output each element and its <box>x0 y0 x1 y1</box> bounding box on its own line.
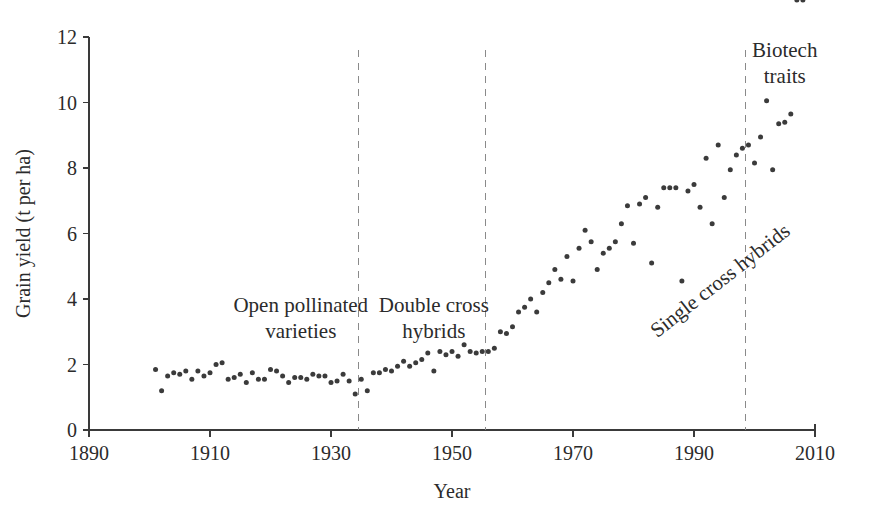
data-point <box>201 373 206 378</box>
data-point <box>244 380 249 385</box>
data-point <box>214 362 219 367</box>
data-point <box>734 152 739 157</box>
y-tick-label: 0 <box>67 419 77 441</box>
data-point <box>389 369 394 374</box>
x-tick-label: 1890 <box>69 442 109 464</box>
data-point <box>298 375 303 380</box>
data-point <box>510 324 515 329</box>
data-point <box>419 357 424 362</box>
x-tick-label: 1910 <box>190 442 230 464</box>
data-point <box>583 228 588 233</box>
data-point <box>195 369 200 374</box>
y-tick-label: 6 <box>67 223 77 245</box>
data-point <box>177 372 182 377</box>
data-point <box>776 121 781 126</box>
annotation-biotech-traits: Biotech <box>752 38 818 62</box>
data-point <box>746 143 751 148</box>
data-point <box>667 185 672 190</box>
data-point <box>304 377 309 382</box>
data-point <box>189 377 194 382</box>
data-point <box>341 372 346 377</box>
data-point <box>256 377 261 382</box>
data-point <box>770 167 775 172</box>
x-tick-label: 2010 <box>795 442 835 464</box>
data-point <box>716 143 721 148</box>
data-point <box>558 277 563 282</box>
data-point <box>437 349 442 354</box>
data-point <box>401 359 406 364</box>
data-point <box>431 369 436 374</box>
annotation-biotech-traits-line2: traits <box>764 64 806 88</box>
data-point <box>625 203 630 208</box>
data-point <box>692 182 697 187</box>
data-point <box>377 370 382 375</box>
x-tick-label: 1930 <box>311 442 351 464</box>
data-point <box>571 278 576 283</box>
data-point <box>522 305 527 310</box>
annotation-open-pollinated-varieties-line2: varieties <box>265 319 336 343</box>
data-point <box>534 310 539 315</box>
data-point <box>546 280 551 285</box>
y-tick-label: 4 <box>67 288 77 310</box>
grain-yield-scatter-chart: 0246810121890191019301950197019902010Yea… <box>0 0 871 519</box>
data-point <box>758 134 763 139</box>
data-point <box>383 367 388 372</box>
data-point <box>552 267 557 272</box>
data-point <box>595 267 600 272</box>
data-point <box>492 346 497 351</box>
data-point-group <box>153 0 805 396</box>
data-point <box>794 0 799 3</box>
data-point <box>468 349 473 354</box>
annotation-double-cross-hybrids: Double cross <box>379 293 489 317</box>
data-point <box>335 378 340 383</box>
data-point <box>450 349 455 354</box>
data-point <box>673 185 678 190</box>
data-point <box>316 373 321 378</box>
annotation-single-cross-hybrids: Single cross hybrids <box>645 218 794 342</box>
data-point <box>353 391 358 396</box>
data-point <box>486 349 491 354</box>
data-point <box>208 370 213 375</box>
data-point <box>480 349 485 354</box>
data-point <box>722 195 727 200</box>
data-point <box>740 146 745 151</box>
data-point <box>262 377 267 382</box>
data-point <box>631 241 636 246</box>
data-point <box>292 375 297 380</box>
data-point <box>274 369 279 374</box>
data-point <box>238 372 243 377</box>
data-point <box>268 367 273 372</box>
data-point <box>443 352 448 357</box>
data-point <box>153 367 158 372</box>
data-point <box>286 380 291 385</box>
data-point <box>504 331 509 336</box>
annotation-double-cross-hybrids-line2: hybrids <box>402 319 465 343</box>
data-point <box>643 195 648 200</box>
data-point <box>764 98 769 103</box>
data-point <box>516 310 521 315</box>
data-point <box>183 369 188 374</box>
x-axis-label: Year <box>434 480 471 502</box>
data-point <box>752 161 757 166</box>
data-point <box>577 246 582 251</box>
data-point <box>171 370 176 375</box>
data-point <box>226 377 231 382</box>
y-tick-label: 2 <box>67 354 77 376</box>
data-point <box>250 370 255 375</box>
annotation-open-pollinated-varieties: Open pollinated <box>233 293 368 317</box>
data-point <box>359 377 364 382</box>
data-point <box>655 205 660 210</box>
data-point <box>564 254 569 259</box>
data-point <box>800 0 805 3</box>
y-axis-label: Grain yield (t per ha) <box>12 149 35 318</box>
data-point <box>407 364 412 369</box>
data-point <box>232 375 237 380</box>
data-point <box>679 278 684 283</box>
y-tick-label: 12 <box>57 26 77 48</box>
data-point <box>661 185 666 190</box>
x-tick-label: 1950 <box>432 442 472 464</box>
data-point <box>322 373 327 378</box>
data-point <box>425 351 430 356</box>
data-point <box>685 188 690 193</box>
data-point <box>619 221 624 226</box>
